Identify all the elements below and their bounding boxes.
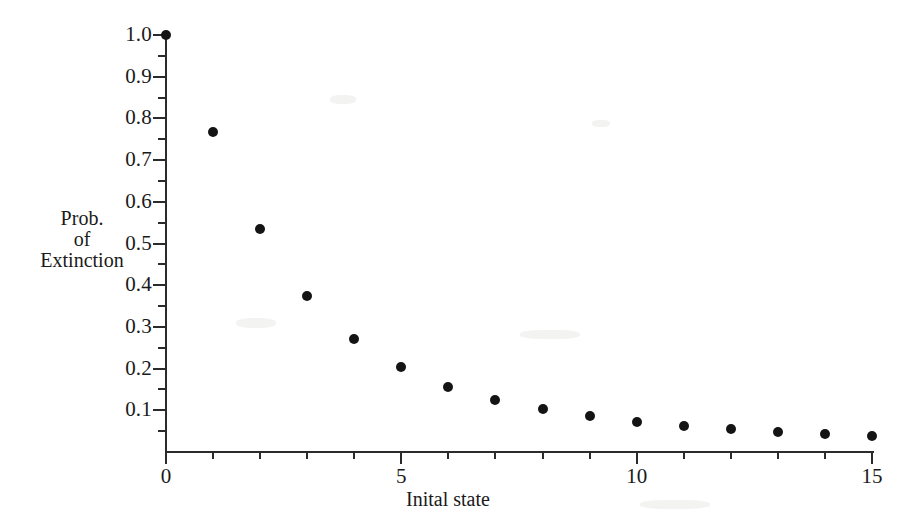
y-axis-tick — [153, 76, 166, 78]
y-axis-minor-tick — [158, 222, 166, 224]
x-axis-minor-tick — [730, 452, 732, 459]
y-axis-tick-label: 0.1 — [92, 399, 152, 420]
data-point — [867, 431, 877, 441]
y-axis-tick — [153, 117, 166, 119]
y-axis-tick — [153, 326, 166, 328]
extinction-probability-scatter-chart: 0.10.20.30.40.50.60.70.80.91.0051015 Pro… — [0, 0, 914, 529]
y-axis-title-line-1: Prob. — [18, 208, 146, 229]
y-axis-minor-tick — [158, 388, 166, 390]
data-point — [443, 382, 453, 392]
y-axis-minor-tick — [158, 97, 166, 99]
y-axis-tick-label: 0.9 — [92, 66, 152, 87]
data-point — [302, 291, 312, 301]
y-axis-tick-label: 0.3 — [92, 316, 152, 337]
y-axis-minor-tick — [158, 430, 166, 432]
y-axis-tick-label: 0.7 — [92, 149, 152, 170]
y-axis-tick-label: 1.0 — [92, 24, 152, 45]
scan-speckle — [592, 120, 610, 127]
data-point — [538, 404, 548, 414]
x-axis-tick-label: 10 — [607, 466, 667, 487]
data-point — [726, 424, 736, 434]
x-axis-minor-tick — [353, 452, 355, 459]
y-axis-tick-label: 0.4 — [92, 274, 152, 295]
x-axis-tick-label: 5 — [371, 466, 431, 487]
x-axis-minor-tick — [259, 452, 261, 459]
x-axis-minor-tick — [683, 452, 685, 459]
x-axis-tick — [636, 452, 638, 464]
y-axis-tick — [153, 409, 166, 411]
x-axis-tick — [165, 452, 167, 464]
y-axis-tick-label: 0.2 — [92, 358, 152, 379]
x-axis-minor-tick — [306, 452, 308, 459]
data-point — [820, 429, 830, 439]
data-point — [255, 224, 265, 234]
scan-speckle — [236, 318, 276, 328]
scan-speckle — [520, 330, 580, 339]
data-point — [396, 362, 406, 372]
data-point — [208, 127, 218, 137]
y-axis-minor-tick — [158, 305, 166, 307]
y-axis-tick — [153, 284, 166, 286]
y-axis-tick — [153, 368, 166, 370]
data-point — [679, 421, 689, 431]
x-axis-minor-tick — [542, 452, 544, 459]
y-axis-tick — [153, 159, 166, 161]
y-axis-tick — [153, 201, 166, 203]
x-axis-tick — [400, 452, 402, 464]
data-point — [773, 427, 783, 437]
y-axis-minor-tick — [158, 138, 166, 140]
data-point — [349, 334, 359, 344]
x-axis-title: Inital state — [406, 489, 490, 510]
data-point — [585, 411, 595, 421]
scan-speckle — [330, 95, 356, 104]
x-axis-line — [165, 451, 874, 453]
scan-speckle — [640, 500, 710, 509]
y-axis-title: Prob. of Extinction — [18, 208, 146, 271]
y-axis-tick-label: 0.8 — [92, 107, 152, 128]
x-axis-tick-label: 0 — [136, 466, 196, 487]
x-axis-minor-tick — [824, 452, 826, 459]
x-axis-minor-tick — [447, 452, 449, 459]
x-axis-tick — [871, 452, 873, 464]
x-axis-minor-tick — [212, 452, 214, 459]
x-axis-minor-tick — [589, 452, 591, 459]
data-point — [490, 395, 500, 405]
y-axis-tick — [153, 243, 166, 245]
y-axis-minor-tick — [158, 55, 166, 57]
y-axis-minor-tick — [158, 263, 166, 265]
x-axis-minor-tick — [494, 452, 496, 459]
data-point — [632, 417, 642, 427]
x-axis-tick-label: 15 — [842, 466, 902, 487]
y-axis-title-line-2: of — [18, 229, 146, 250]
y-axis-title-line-3: Extinction — [18, 250, 146, 271]
x-axis-minor-tick — [777, 452, 779, 459]
data-point — [161, 30, 171, 40]
y-axis-minor-tick — [158, 180, 166, 182]
y-axis-minor-tick — [158, 347, 166, 349]
